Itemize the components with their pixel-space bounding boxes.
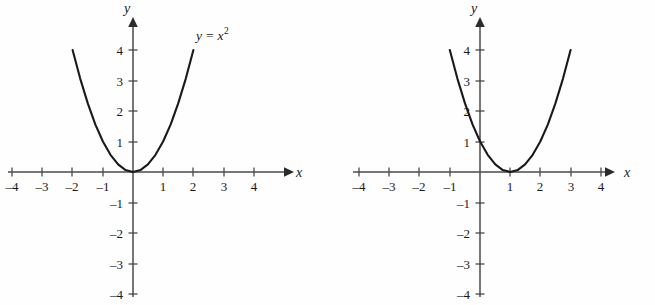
y-tick-label-left-1: 3 (117, 74, 124, 89)
x-tick-label-right-4: 1 (507, 179, 514, 194)
curve-right (450, 50, 571, 172)
y-axis-arrow-left (128, 17, 138, 27)
y-tick-label-right-6: –3 (456, 257, 470, 272)
x-tick-label-right-6: 3 (568, 179, 575, 194)
y-tick-label-left-4: –1 (109, 196, 123, 211)
x-axis-arrow-left (284, 167, 294, 177)
x-tick-label-left-4: 1 (160, 179, 167, 194)
equation-left-equals: = (206, 28, 214, 43)
x-axis-arrow-right (605, 167, 615, 177)
x-tick-label-left-1: –3 (35, 179, 49, 194)
y-tick-label-right-5: –2 (456, 226, 470, 241)
two-parabola-figure: –4 –3 –2 –1 1 2 3 4 4 3 2 1 –1 –2 –3 –4 … (0, 0, 655, 305)
y-axis-label-left: y (122, 1, 131, 16)
y-tick-label-right-1: 3 (464, 74, 471, 89)
plot-left: –4 –3 –2 –1 1 2 3 4 4 3 2 1 –1 –2 –3 –4 … (0, 0, 327, 305)
x-tick-label-right-5: 2 (537, 179, 544, 194)
y-tick-label-left-2: 2 (117, 104, 124, 119)
y-tick-label-right-3: 1 (464, 135, 471, 150)
y-tick-label-left-6: –3 (109, 257, 123, 272)
chart-panel-right: –4 –3 –2 –1 1 2 3 4 4 3 2 1 –1 –2 –3 –4 … (328, 0, 655, 305)
x-axis-label-right: x (623, 165, 631, 180)
x-tick-label-right-0: –4 (352, 179, 367, 194)
y-tick-label-left-5: –2 (109, 226, 123, 241)
y-axis-label-right: y (469, 1, 478, 16)
plot-right: –4 –3 –2 –1 1 2 3 4 4 3 2 1 –1 –2 –3 –4 … (328, 0, 655, 305)
x-tick-label-left-7: 4 (251, 179, 258, 194)
equation-left-lhs: y (196, 28, 202, 43)
x-axis-label-left: x (295, 165, 303, 180)
y-tick-label-right-7: –4 (456, 287, 471, 302)
equation-label-left: y = x2 (196, 26, 229, 44)
x-tick-label-right-7: 4 (598, 179, 605, 194)
x-tick-label-left-0: –4 (5, 179, 20, 194)
equation-left-exponent: 2 (224, 26, 229, 36)
x-tick-label-left-3: –1 (96, 179, 110, 194)
y-tick-label-left-3: 1 (117, 135, 124, 150)
chart-panel-left: –4 –3 –2 –1 1 2 3 4 4 3 2 1 –1 –2 –3 –4 … (0, 0, 327, 305)
y-tick-label-left-0: 4 (117, 43, 124, 58)
y-tick-label-right-0: 4 (464, 43, 471, 58)
y-tick-label-right-4: –1 (456, 196, 470, 211)
x-tick-label-left-5: 2 (190, 179, 197, 194)
x-tick-label-right-3: –1 (443, 179, 457, 194)
y-tick-label-left-7: –4 (109, 287, 124, 302)
x-tick-label-left-6: 3 (221, 179, 228, 194)
x-tick-label-left-2: –2 (65, 179, 79, 194)
x-tick-label-right-2: –2 (412, 179, 426, 194)
y-axis-arrow-right (475, 17, 485, 27)
x-tick-label-right-1: –3 (382, 179, 396, 194)
